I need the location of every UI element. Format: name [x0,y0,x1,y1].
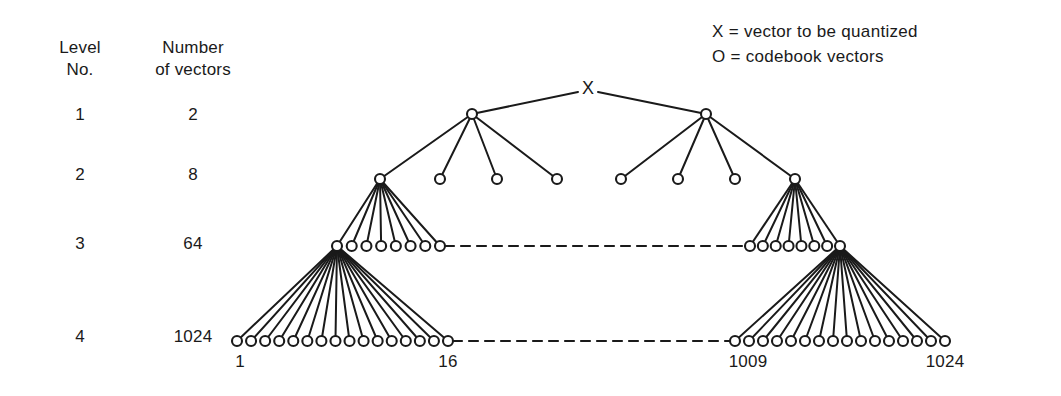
figure-canvas: Level No. Number of vectors 1 2 2 8 3 64… [0,0,1061,396]
tree-graphic [0,0,1061,396]
